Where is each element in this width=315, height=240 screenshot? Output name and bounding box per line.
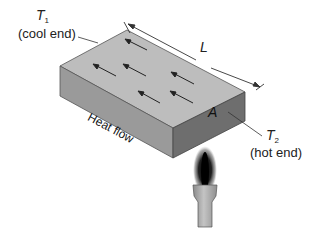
area-label: A: [208, 105, 217, 120]
t1-label: T1: [36, 8, 49, 28]
t1-description: (cool end): [18, 26, 76, 41]
t1-leader-line: [78, 37, 98, 43]
length-label: L: [200, 40, 208, 55]
burner-icon: [193, 185, 217, 227]
t2-description: (hot end): [250, 145, 302, 160]
